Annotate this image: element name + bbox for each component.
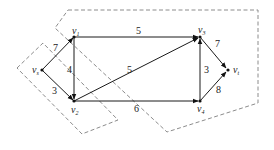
flow-network-diagram: vs v1 v2 v3 v4 vt 7 3 5 4 5 6 3 7 8 [0, 0, 274, 150]
weight-vs-v1: 7 [53, 42, 58, 53]
weight-v2-v4: 6 [134, 103, 139, 114]
node-label-v2: v2 [71, 104, 78, 116]
node-vs [40, 68, 43, 71]
node-label-vt: vt [233, 64, 239, 76]
node-label-v1: v1 [72, 25, 79, 37]
weight-v4-v3: 3 [204, 64, 209, 75]
weight-v1-v2: 4 [67, 64, 72, 75]
node-vt [226, 68, 229, 71]
weight-v2-v3: 5 [127, 64, 132, 75]
weight-vs-v2: 3 [52, 85, 57, 96]
edge-v4-vt [200, 72, 226, 101]
node-label-v3: v3 [198, 24, 205, 36]
edge-v2-v3 [74, 38, 198, 101]
node-label-vs: vs [32, 64, 39, 76]
node-v3 [198, 35, 201, 38]
node-v2 [72, 99, 75, 102]
node-label-v4: v4 [197, 103, 204, 115]
weight-v1-v3: 5 [136, 25, 141, 36]
weight-v3-vt: 7 [215, 38, 220, 49]
weight-v4-vt: 8 [216, 84, 221, 95]
small-cut-boundary [17, 43, 118, 134]
